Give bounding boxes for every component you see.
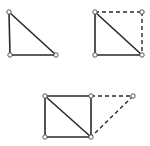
solid-edge [45,96,91,137]
vertex-node [93,53,97,57]
diagram-canvas [0,0,150,146]
figure-triangle-completed-to-square [93,10,144,57]
vertex-node [43,94,47,98]
vertex-node [89,135,93,139]
vertex-node [8,53,12,57]
dashed-edge [91,96,133,137]
vertex-node [131,94,135,98]
solid-edge [95,12,142,55]
solid-edge [9,12,56,55]
vertex-node [89,94,93,98]
figure-right-triangle [7,10,58,57]
vertex-node [93,10,97,14]
vertex-node [7,10,11,14]
vertex-node [54,53,58,57]
vertex-node [140,53,144,57]
vertex-node [140,10,144,14]
figure-square-with-extension-triangle [43,94,135,139]
vertex-node [43,135,47,139]
solid-edge [9,12,10,55]
